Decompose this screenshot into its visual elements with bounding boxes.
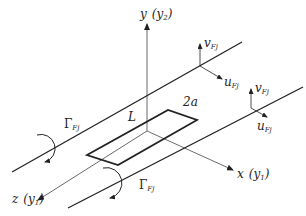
upper-circulation-label: ΓFj <box>64 117 80 132</box>
y-axis-label: y (y2) <box>139 7 173 22</box>
plate-length-label: L <box>127 110 136 124</box>
z-axis-label: z (y1) <box>11 192 44 207</box>
lower-circulation-label: ΓFj <box>139 178 155 193</box>
lower-v-label: vFj <box>255 81 270 96</box>
upper-u-label: uFj <box>224 75 240 90</box>
x-axis <box>147 131 233 170</box>
upper-v-label: vFj <box>204 36 219 51</box>
diagram-canvas: y (y2) x (y1) z (y1) L 2a ΓFj ΓFj vFj uF… <box>0 0 306 216</box>
z-axis <box>38 131 147 200</box>
upper-vortex-line <box>12 42 242 172</box>
upper-circulation-arrow <box>37 134 55 162</box>
lower-u-label: uFj <box>257 119 273 134</box>
lower-circulation-arrow <box>103 168 122 198</box>
plate-rectangle <box>87 110 197 165</box>
x-axis-label: x (y1) <box>237 167 270 182</box>
plate-width-label: 2a <box>182 95 198 109</box>
